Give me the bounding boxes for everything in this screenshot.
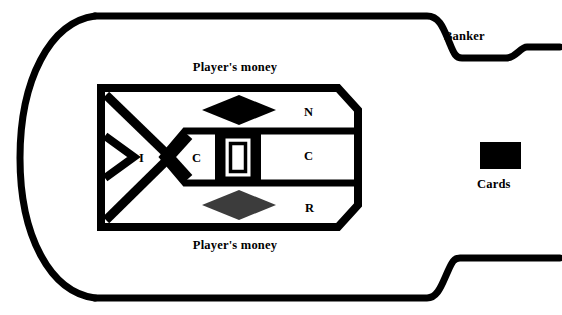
cards-block <box>480 142 521 169</box>
players-money-top-label: Player's money <box>0 61 470 74</box>
table-diagram-svg <box>0 0 562 315</box>
cell-letter-n: N <box>304 105 313 120</box>
table-outline-bottom <box>95 258 560 298</box>
diamond-top-marker <box>202 95 276 125</box>
cell-letter-caller: I <box>139 151 144 166</box>
cell-letter-croupier-right: C <box>304 149 313 164</box>
table-outline-left-arc <box>20 16 95 298</box>
cards-label: Cards <box>477 178 511 191</box>
players-money-bottom-label: Player's money <box>0 239 470 252</box>
banker-label: Banker <box>444 30 485 43</box>
left-arrow-triangle <box>105 136 134 178</box>
cell-letter-r: R <box>305 201 314 216</box>
table-outline-path <box>95 16 560 58</box>
diamond-bottom-marker <box>202 190 276 220</box>
cell-letter-croupier-left: C <box>192 151 201 166</box>
table-layout-diagram: Player's money Player's money Banker Car… <box>0 0 562 315</box>
shoe-box-inner <box>231 144 246 172</box>
